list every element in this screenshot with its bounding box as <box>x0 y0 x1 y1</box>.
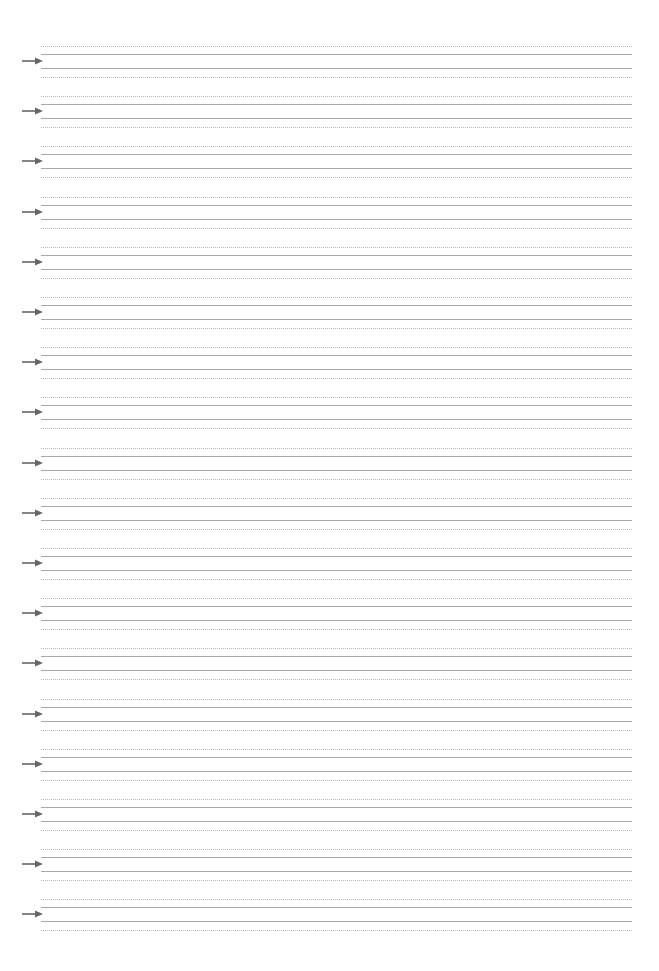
bottom-dotted-guide-line <box>41 428 632 429</box>
top-solid-line <box>41 405 632 406</box>
top-solid-line <box>41 54 632 55</box>
bottom-dotted-guide-line <box>41 378 632 379</box>
arrow-right-icon <box>22 760 44 768</box>
arrow-right-icon <box>22 308 44 316</box>
practice-sheet <box>0 0 659 971</box>
top-dotted-guide-line <box>41 849 632 850</box>
top-solid-line <box>41 857 632 858</box>
arrow-right-icon <box>22 860 44 868</box>
top-solid-line <box>41 807 632 808</box>
top-solid-line <box>41 456 632 457</box>
top-dotted-guide-line <box>41 598 632 599</box>
top-dotted-guide-line <box>41 548 632 549</box>
top-dotted-guide-line <box>41 247 632 248</box>
top-dotted-guide-line <box>41 397 632 398</box>
bottom-dotted-guide-line <box>41 177 632 178</box>
bottom-solid-line <box>41 68 632 69</box>
arrow-right-icon <box>22 258 44 266</box>
arrow-right-icon <box>22 358 44 366</box>
bottom-solid-line <box>41 620 632 621</box>
top-solid-line <box>41 154 632 155</box>
bottom-solid-line <box>41 921 632 922</box>
arrow-right-icon <box>22 559 44 567</box>
arrow-right-icon <box>22 459 44 467</box>
arrow-right-icon <box>22 509 44 517</box>
top-dotted-guide-line <box>41 699 632 700</box>
bottom-solid-line <box>41 269 632 270</box>
bottom-solid-line <box>41 520 632 521</box>
bottom-solid-line <box>41 419 632 420</box>
top-dotted-guide-line <box>41 297 632 298</box>
bottom-dotted-guide-line <box>41 629 632 630</box>
arrow-right-icon <box>22 910 44 918</box>
arrow-right-icon <box>22 810 44 818</box>
bottom-dotted-guide-line <box>41 730 632 731</box>
top-dotted-guide-line <box>41 448 632 449</box>
top-solid-line <box>41 606 632 607</box>
arrow-right-icon <box>22 659 44 667</box>
bottom-solid-line <box>41 319 632 320</box>
top-solid-line <box>41 707 632 708</box>
bottom-dotted-guide-line <box>41 77 632 78</box>
top-dotted-guide-line <box>41 347 632 348</box>
bottom-solid-line <box>41 721 632 722</box>
top-solid-line <box>41 205 632 206</box>
bottom-dotted-guide-line <box>41 930 632 931</box>
bottom-dotted-guide-line <box>41 679 632 680</box>
top-solid-line <box>41 907 632 908</box>
top-dotted-guide-line <box>41 46 632 47</box>
bottom-solid-line <box>41 821 632 822</box>
arrow-right-icon <box>22 710 44 718</box>
bottom-solid-line <box>41 771 632 772</box>
bottom-dotted-guide-line <box>41 278 632 279</box>
top-dotted-guide-line <box>41 648 632 649</box>
bottom-dotted-guide-line <box>41 579 632 580</box>
top-dotted-guide-line <box>41 498 632 499</box>
arrow-right-icon <box>22 208 44 216</box>
arrow-right-icon <box>22 157 44 165</box>
bottom-solid-line <box>41 871 632 872</box>
top-solid-line <box>41 656 632 657</box>
bottom-solid-line <box>41 470 632 471</box>
top-solid-line <box>41 355 632 356</box>
arrow-right-icon <box>22 107 44 115</box>
top-dotted-guide-line <box>41 146 632 147</box>
bottom-dotted-guide-line <box>41 127 632 128</box>
bottom-dotted-guide-line <box>41 880 632 881</box>
top-solid-line <box>41 255 632 256</box>
bottom-dotted-guide-line <box>41 529 632 530</box>
top-solid-line <box>41 506 632 507</box>
bottom-solid-line <box>41 570 632 571</box>
arrow-right-icon <box>22 609 44 617</box>
top-dotted-guide-line <box>41 749 632 750</box>
top-solid-line <box>41 305 632 306</box>
bottom-dotted-guide-line <box>41 228 632 229</box>
top-dotted-guide-line <box>41 899 632 900</box>
bottom-solid-line <box>41 670 632 671</box>
top-dotted-guide-line <box>41 799 632 800</box>
top-solid-line <box>41 104 632 105</box>
bottom-solid-line <box>41 168 632 169</box>
bottom-dotted-guide-line <box>41 328 632 329</box>
arrow-right-icon <box>22 57 44 65</box>
bottom-solid-line <box>41 118 632 119</box>
top-dotted-guide-line <box>41 96 632 97</box>
top-dotted-guide-line <box>41 197 632 198</box>
top-solid-line <box>41 556 632 557</box>
bottom-solid-line <box>41 219 632 220</box>
bottom-dotted-guide-line <box>41 830 632 831</box>
bottom-dotted-guide-line <box>41 780 632 781</box>
bottom-dotted-guide-line <box>41 479 632 480</box>
top-solid-line <box>41 757 632 758</box>
arrow-right-icon <box>22 408 44 416</box>
bottom-solid-line <box>41 369 632 370</box>
